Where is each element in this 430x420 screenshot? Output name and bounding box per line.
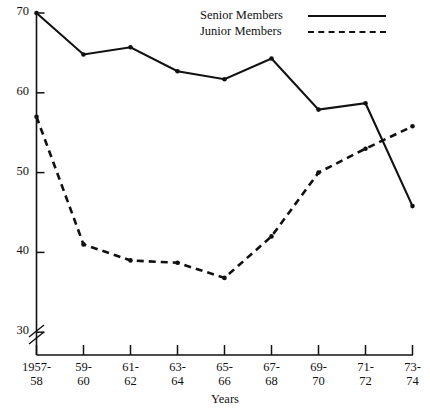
data-point (269, 234, 274, 239)
y-tick-label: 40 (3, 244, 29, 257)
data-point (222, 276, 227, 281)
data-point (81, 52, 86, 57)
series-layer (34, 11, 415, 281)
data-point (222, 77, 227, 82)
y-tick-label: 30 (3, 324, 29, 337)
data-point (363, 101, 368, 106)
y-tick-label: 70 (3, 5, 29, 18)
data-point (128, 45, 133, 50)
y-tick-label: 60 (3, 85, 29, 98)
x-tick-label-line: 73- (383, 360, 430, 374)
legend-entry-senior: Senior Members (200, 8, 386, 23)
y-tick-label: 50 (3, 165, 29, 178)
legend-label-senior: Senior Members (200, 8, 308, 23)
x-tick-marks (37, 345, 413, 355)
x-axis-title: Years (185, 392, 265, 407)
series-line-junior (37, 117, 413, 278)
y-tick-marks (37, 13, 45, 332)
data-point (81, 242, 86, 247)
data-point (175, 261, 180, 266)
legend-entry-junior: Junior Members (200, 24, 386, 39)
series-line-senior (37, 13, 413, 206)
x-tick-label-line: 74 (383, 374, 430, 388)
data-point (34, 114, 39, 119)
plot-area (0, 0, 430, 420)
data-point (316, 170, 321, 175)
data-point (363, 146, 368, 151)
data-point (175, 69, 180, 74)
line-chart: 3040506070 1957-5859-6061-6263-6465-6667… (0, 0, 430, 420)
data-point (410, 204, 415, 209)
x-tick-label: 73-74 (383, 360, 430, 389)
legend-swatch-solid (308, 11, 386, 21)
data-point (128, 258, 133, 263)
data-point (316, 107, 321, 112)
legend-swatch-dashed (308, 27, 386, 37)
legend-label-junior: Junior Members (200, 24, 308, 39)
data-point (410, 124, 415, 129)
data-point (269, 56, 274, 61)
data-point (34, 11, 39, 16)
